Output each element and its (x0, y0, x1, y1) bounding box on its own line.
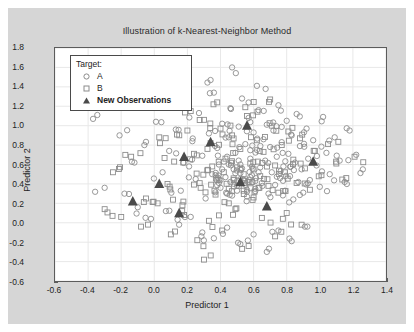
legend-item-b: B (76, 82, 186, 94)
x-tick-label: 1.4 (367, 285, 407, 295)
y-tick-label: 0.2 (0, 199, 24, 209)
y-tick-label: 0.0 (0, 218, 24, 228)
x-axis-label: Predictor 1 (8, 300, 406, 310)
legend-label-a: A (97, 71, 103, 81)
legend-label-new-observations: New Observations (97, 95, 171, 105)
legend-item-a: A (76, 70, 186, 82)
triangle-marker-icon (82, 96, 91, 105)
chart-title: Illustration of k-Nearest-Neighbor Metho… (8, 26, 406, 36)
y-tick-label: 1.2 (0, 101, 24, 111)
legend-item-new-observations: New Observations (76, 94, 186, 106)
y-tick-label: 0.8 (0, 140, 24, 150)
y-tick-label: 1.6 (0, 62, 24, 72)
y-tick-label: 1.8 (0, 42, 24, 52)
y-tick-label: 1.0 (0, 120, 24, 130)
square-marker-icon (82, 84, 91, 93)
y-tick-label: 1.4 (0, 81, 24, 91)
legend-box: Target: A B New Observations (70, 55, 192, 111)
y-tick-label: -0.6 (0, 277, 24, 287)
y-tick-label: -0.2 (0, 238, 24, 248)
y-tick-label: 0.6 (0, 160, 24, 170)
legend-title: Target: (76, 59, 186, 70)
x-tick-mark (387, 278, 388, 282)
circle-marker-icon (82, 72, 91, 81)
y-tick-mark (54, 282, 58, 283)
legend-label-b: B (97, 83, 103, 93)
y-tick-label: -0.4 (0, 257, 24, 267)
y-tick-label: 0.4 (0, 179, 24, 189)
figure-panel: Illustration of k-Nearest-Neighbor Metho… (8, 8, 406, 324)
